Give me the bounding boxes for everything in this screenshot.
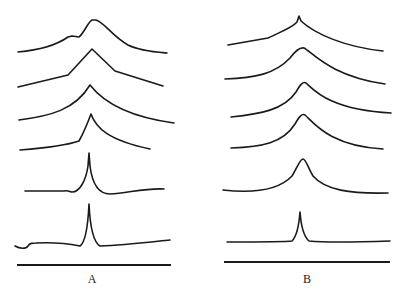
spectrum-trace-b-1	[228, 16, 383, 51]
spectrum-trace-b-6	[227, 212, 390, 242]
spectra-figure	[0, 0, 402, 300]
spectrum-trace-a-4	[20, 114, 150, 150]
panel-b-traces	[223, 16, 391, 262]
spectrum-trace-a-6	[15, 204, 170, 248]
spectrum-trace-b-5	[223, 159, 388, 193]
spectrum-trace-a-1	[18, 20, 167, 53]
spectrum-trace-a-2	[18, 49, 163, 87]
spectrum-trace-b-4	[231, 114, 383, 149]
spectrum-trace-b-2	[225, 48, 385, 84]
panel-label-a: A	[88, 272, 97, 287]
panel-label-b: B	[303, 272, 311, 287]
spectrum-trace-b-3	[231, 82, 391, 117]
panel-a-traces	[15, 20, 174, 265]
spectrum-trace-a-5	[25, 153, 164, 194]
spectrum-trace-a-3	[19, 85, 174, 123]
